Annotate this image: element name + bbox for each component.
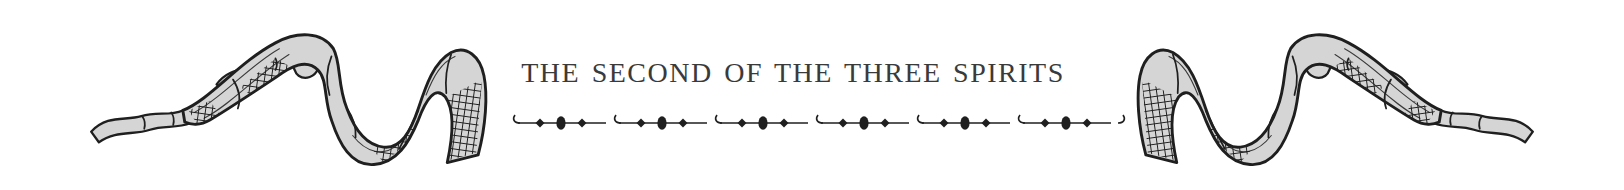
ribbon-illustration: [1128, 12, 1542, 178]
chapter-heading-page: THE SECOND OF THE THREE SPIRITS: [0, 0, 1624, 190]
divider-segment: [612, 108, 713, 138]
chapter-title: THE SECOND OF THE THREE SPIRITS: [497, 56, 1089, 90]
divider-segment: [713, 108, 814, 138]
divider-end-hook: [1117, 108, 1127, 138]
divider-segment: [511, 108, 612, 138]
ribbon-engraving-right: [1128, 12, 1542, 178]
divider-segment: [814, 108, 915, 138]
divider-segment: [915, 108, 1016, 138]
divider: [511, 108, 1136, 138]
ribbon-illustration: [82, 12, 496, 178]
divider-segment: [1016, 108, 1117, 138]
ribbon-engraving-left: [82, 12, 496, 178]
